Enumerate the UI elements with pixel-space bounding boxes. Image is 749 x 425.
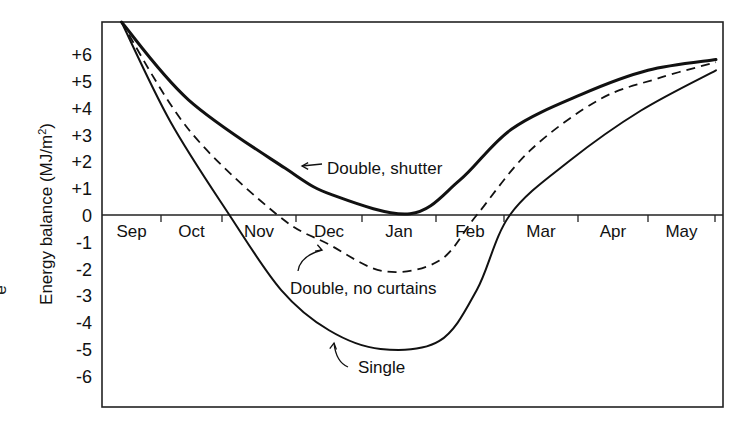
month-label-nov: Nov (244, 222, 275, 241)
month-label-apr: Apr (600, 222, 627, 241)
series-single (121, 22, 715, 350)
y-tick-label: 0 (82, 206, 92, 226)
y-tick-label: -3 (76, 286, 92, 306)
y-tick-label: +1 (71, 179, 92, 199)
series-double-no-curtains (121, 22, 715, 272)
annotation-single: Single (358, 358, 405, 377)
month-label-oct: Oct (178, 222, 205, 241)
month-label-dec: Dec (314, 222, 345, 241)
arrow-double-no-curtains-icon (298, 250, 322, 271)
y-axis-label: Energy balance (MJ/m2) (36, 123, 56, 305)
arrow-single-icon (334, 343, 348, 367)
month-label-mar: Mar (526, 222, 556, 241)
y-tick-label: -1 (76, 233, 92, 253)
y-axis-ticks: +6+5+4+3+2+10-1-2-3-4-5-6 (71, 45, 92, 387)
y-tick-label: -2 (76, 260, 92, 280)
y-tick-label: +2 (71, 152, 92, 172)
y-tick-label: -4 (76, 313, 92, 333)
y-tick-label: -6 (76, 367, 92, 387)
month-label-jan: Jan (385, 222, 412, 241)
zero-axis (102, 215, 723, 222)
arrow-single-icon-head (330, 343, 337, 350)
month-label-sep: Sep (116, 222, 146, 241)
y-tick-label: +4 (71, 99, 92, 119)
y-tick-label: -5 (76, 340, 92, 360)
energy-balance-chart: +6+5+4+3+2+10-1-2-3-4-5-6 SepOctNovDecJa… (0, 0, 749, 425)
series-lines (121, 22, 715, 350)
annotation-double-shutter: Double, shutter (327, 159, 443, 178)
annotation-double-no-curtains: Double, no curtains (290, 279, 436, 298)
y-tick-label: +6 (71, 45, 92, 65)
arrow-double-no-curtains-icon-head (315, 245, 322, 251)
y-tick-label: +5 (71, 72, 92, 92)
month-label-feb: Feb (455, 222, 484, 241)
month-labels: SepOctNovDecJanFebMarAprMay (116, 222, 698, 241)
y-tick-label: +3 (71, 126, 92, 146)
month-label-may: May (665, 222, 698, 241)
